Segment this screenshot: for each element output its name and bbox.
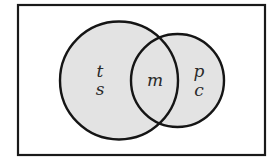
label-left-top: t (97, 61, 104, 81)
label-right-top: p (194, 61, 205, 81)
label-right-bottom: c (194, 80, 204, 100)
venn-diagram: t s m p c (0, 0, 275, 166)
label-left-bottom: s (96, 79, 105, 99)
label-intersection: m (147, 70, 163, 90)
